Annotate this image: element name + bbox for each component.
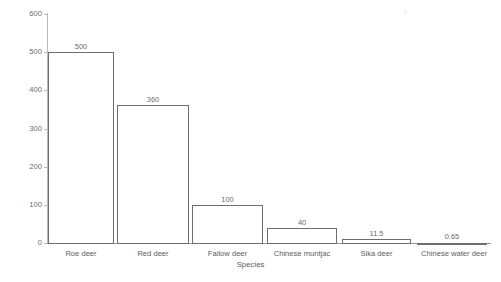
bar-value-red-deer: 360 — [117, 95, 189, 104]
y-tick-label-300: 300 — [20, 125, 42, 133]
y-tick-label-500: 500 — [20, 48, 42, 56]
bar-value-roe-deer: 500 — [48, 42, 114, 51]
x-category-label-chinese-muntjac: Chinese muntjac — [262, 249, 342, 259]
bar-fallow-deer — [192, 205, 263, 244]
y-tick-label-200: 200 — [20, 163, 42, 171]
y-tick-label-400: 400 — [20, 86, 42, 94]
bar-chinese-water-deer — [417, 243, 487, 245]
x-category-label-red-deer: Red deer — [117, 249, 189, 259]
y-tick-label-0: 0 — [20, 239, 42, 247]
bar-chart: Minimum population size (thousands) 600 … — [0, 0, 501, 282]
y-tick-label-600: 600 — [20, 10, 42, 18]
y-tick-label-100: 100 — [20, 201, 42, 209]
bar-value-chinese-water-deer: 0.65 — [417, 232, 487, 241]
x-category-label-sika-deer: Sika deer — [342, 249, 411, 259]
bar-red-deer — [117, 105, 189, 244]
x-category-label-fallow-deer: Fallow deer — [192, 249, 263, 259]
x-category-label-chinese-water-deer: Chinese water deer — [409, 249, 499, 259]
background-speck — [404, 11, 407, 14]
bar-value-chinese-muntjac: 40 — [267, 218, 337, 227]
bar-chinese-muntjac — [267, 228, 337, 244]
x-axis-title: Species — [0, 260, 501, 270]
bar-roe-deer — [48, 52, 114, 244]
x-category-label-roe-deer: Roe deer — [48, 249, 114, 259]
bar-value-fallow-deer: 100 — [192, 195, 263, 204]
bar-sika-deer — [342, 239, 411, 244]
bar-value-sika-deer: 11.5 — [342, 229, 411, 238]
